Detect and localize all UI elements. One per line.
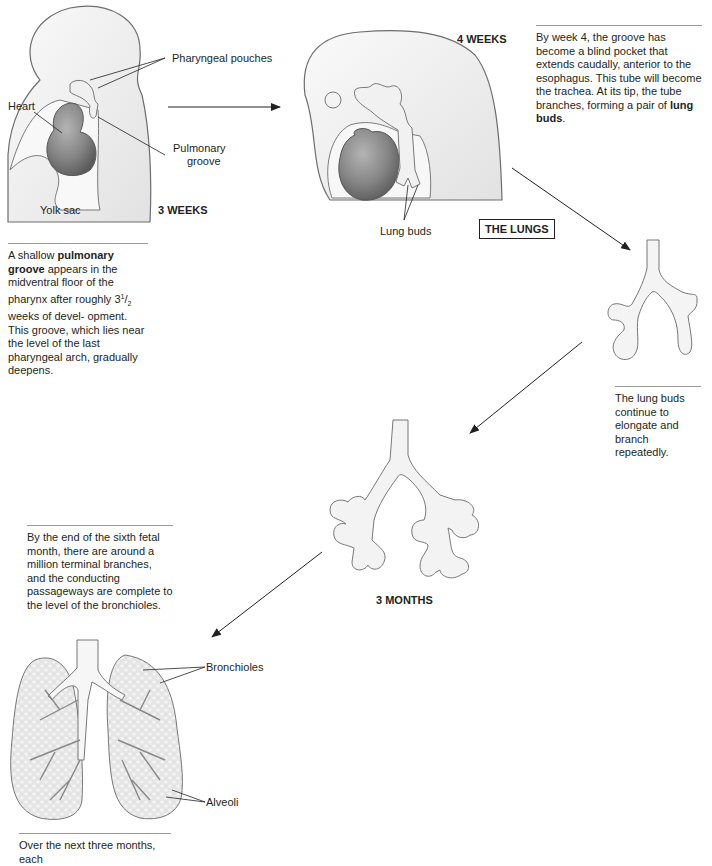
caption-final: Over the next three months, each (19, 833, 171, 866)
arrow-buds-to-3m (470, 342, 582, 433)
label-pulmonary-groove: Pulmonary groove (173, 142, 226, 168)
label-alveoli: Alveoli (206, 796, 238, 809)
caption-4-weeks: By week 4, the groove has become a blind… (536, 25, 702, 126)
label-heart: Heart (8, 100, 35, 113)
caption-branching: The lung buds continue to elongate and b… (615, 386, 701, 460)
stage-label-3-weeks: 3 WEEKS (158, 204, 208, 216)
caption-4-weeks-post: . (562, 112, 565, 124)
caption-3-weeks: A shallow pulmonary groove appears in th… (8, 243, 148, 378)
stage-label-4-weeks: 4 WEEKS (457, 33, 507, 45)
label-bronchioles: Bronchioles (206, 661, 263, 674)
caption-3-weeks-text-b: weeks of devel- opment. This groove, whi… (8, 310, 144, 376)
label-pharyngeal-pouches: Pharyngeal pouches (172, 52, 272, 65)
lung-buds-branching (608, 240, 697, 360)
embryo-3-weeks (8, 6, 151, 222)
lungs-3-months (330, 420, 479, 578)
label-pulmonary-groove-line2: groove (173, 155, 226, 168)
caption-3-weeks-pre: A shallow (8, 249, 58, 261)
label-lung-buds: Lung buds (380, 225, 431, 238)
embryo-4-weeks (304, 31, 502, 201)
arrow-3m-to-6m (212, 552, 322, 637)
lungs-6-months (11, 640, 183, 819)
label-yolk-sac: Yolk sac (40, 204, 81, 217)
fraction-denominator: 2 (127, 300, 131, 307)
title-the-lungs: THE LUNGS (479, 219, 555, 239)
label-pulmonary-groove-line1: Pulmonary (173, 142, 226, 155)
stage-label-3-months: 3 MONTHS (376, 594, 433, 606)
caption-6-months: By the end of the sixth fetal month, the… (27, 525, 173, 612)
fraction-numerator: 1 (121, 293, 125, 300)
